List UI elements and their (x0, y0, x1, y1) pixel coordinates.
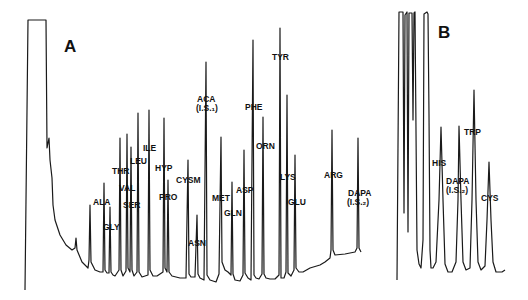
peak-label-lys: LYS (280, 172, 296, 182)
peak-label-arg: ARG (324, 170, 343, 180)
peak-label-dapa-is: (I.S.₂) (347, 197, 369, 207)
chromatogram-figure: A B ALA GLY THR VAL SER LEU ILE HYP PRO … (0, 0, 528, 300)
peak-label-gly: GLY (103, 222, 120, 232)
peak-label-met: MET (212, 193, 231, 203)
peak-label-orn: ORN (256, 141, 275, 151)
peak-label-gln: GLN (224, 208, 242, 218)
chromatogram-a (25, 20, 361, 290)
peak-label-leu: LEU (130, 156, 147, 166)
chromatogram-b (397, 12, 505, 280)
peak-label-hyp: HYP (155, 163, 173, 173)
peak-label-aca-is: (I.S.₁) (196, 103, 218, 113)
peak-label-ser: SER (123, 200, 140, 210)
peak-label-pro: PRO (159, 192, 178, 202)
peak-label-val: VAL (119, 183, 135, 193)
peak-label-tyr: TYR (272, 52, 289, 62)
peak-label-cysm: CYSM (176, 175, 201, 185)
peak-label-phe: PHE (245, 102, 263, 112)
peak-label-dapa-is-b: (I.S.₂) (446, 185, 468, 195)
peak-label-cys: CYS (481, 193, 499, 203)
peak-label-asp: ASP (236, 185, 254, 195)
panel-a-letter: A (64, 37, 76, 56)
peak-label-trp: TRP (464, 127, 481, 137)
peak-label-his: HIS (432, 158, 447, 168)
peak-label-ile: ILE (143, 143, 157, 153)
peak-label-ala: ALA (93, 197, 110, 207)
panel-b-letter: B (438, 23, 450, 42)
peak-label-glu: GLU (288, 197, 306, 207)
peak-label-thr: THR (112, 166, 129, 176)
peak-label-asn: ASN (188, 238, 206, 248)
